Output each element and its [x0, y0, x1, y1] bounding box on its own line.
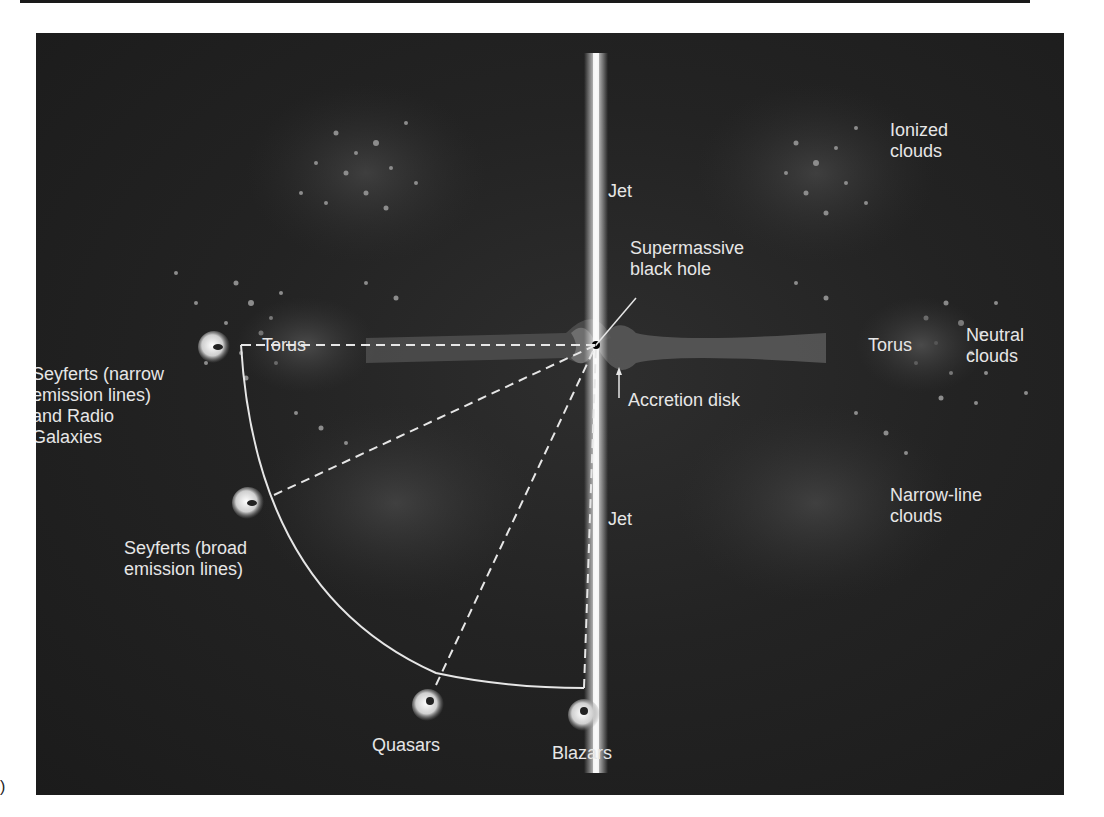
observer-label-blazars: Blazars: [552, 743, 612, 764]
disk-right-shape: [596, 325, 826, 370]
jet-bottom-label: Jet: [608, 509, 632, 530]
observer-label-seyfert-narrow: Seyferts (narrow emission lines) and Rad…: [36, 364, 164, 448]
accretion-disk-label: Accretion disk: [628, 390, 740, 411]
torus-left-label: Torus: [262, 335, 306, 356]
narrow-line-clouds-label: Narrow-line clouds: [890, 485, 982, 527]
observer-label-seyfert-broad: Seyferts (broad emission lines): [124, 538, 247, 580]
panel-letter: ): [0, 778, 5, 796]
observer-eye-icon-quasar: [412, 689, 444, 721]
torus-right-label: Torus: [868, 335, 912, 356]
observer-label-quasars: Quasars: [372, 735, 440, 756]
ionized-cloud-haze-right: [696, 83, 936, 263]
black-hole-label: Supermassive black hole: [630, 238, 744, 280]
observer-eye-icon-blazar: [568, 699, 600, 731]
ionized-clouds-label: Ionized clouds: [890, 120, 948, 162]
observer-eye-icon-seyfert-broad: [232, 487, 264, 519]
agn-diagram: Jet Jet Supermassive black hole Accretio…: [36, 33, 1064, 795]
observer-eye-icon-seyfert-narrow: [198, 331, 230, 363]
neutral-clouds-label: Neutral clouds: [966, 325, 1024, 367]
ionized-cloud-haze-left: [246, 83, 486, 263]
figure-top-border: [20, 0, 1030, 3]
narrow-line-haze-left: [256, 403, 536, 603]
jet-top-label: Jet: [608, 181, 632, 202]
